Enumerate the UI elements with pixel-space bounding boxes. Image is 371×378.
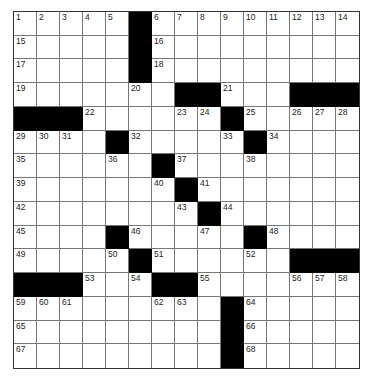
grid-cell[interactable] bbox=[175, 249, 198, 273]
grid-cell[interactable] bbox=[60, 226, 83, 250]
grid-cell[interactable] bbox=[83, 83, 106, 107]
grid-cell[interactable]: 67 bbox=[14, 344, 37, 368]
grid-cell[interactable]: 41 bbox=[198, 178, 221, 202]
grid-cell[interactable] bbox=[129, 107, 152, 131]
grid-cell[interactable] bbox=[129, 202, 152, 226]
grid-cell[interactable]: 31 bbox=[60, 131, 83, 155]
grid-cell[interactable] bbox=[106, 59, 129, 83]
grid-cell[interactable] bbox=[106, 321, 129, 345]
grid-cell[interactable] bbox=[83, 249, 106, 273]
grid-cell[interactable] bbox=[152, 202, 175, 226]
grid-cell[interactable]: 61 bbox=[60, 297, 83, 321]
grid-cell[interactable] bbox=[175, 36, 198, 60]
grid-cell[interactable]: 40 bbox=[152, 178, 175, 202]
grid-cell[interactable] bbox=[244, 36, 267, 60]
grid-cell[interactable] bbox=[336, 226, 359, 250]
grid-cell[interactable] bbox=[152, 321, 175, 345]
grid-cell[interactable]: 4 bbox=[83, 12, 106, 36]
grid-cell[interactable] bbox=[152, 226, 175, 250]
grid-cell[interactable] bbox=[129, 344, 152, 368]
grid-cell[interactable] bbox=[37, 249, 60, 273]
grid-cell[interactable] bbox=[313, 36, 336, 60]
grid-cell[interactable] bbox=[83, 226, 106, 250]
grid-cell[interactable] bbox=[37, 226, 60, 250]
grid-cell[interactable] bbox=[336, 59, 359, 83]
grid-cell[interactable]: 20 bbox=[129, 83, 152, 107]
grid-cell[interactable] bbox=[313, 321, 336, 345]
grid-cell[interactable] bbox=[267, 273, 290, 297]
grid-cell[interactable]: 56 bbox=[290, 273, 313, 297]
grid-cell[interactable]: 11 bbox=[267, 12, 290, 36]
grid-cell[interactable] bbox=[221, 178, 244, 202]
grid-cell[interactable]: 68 bbox=[244, 344, 267, 368]
grid-cell[interactable]: 60 bbox=[37, 297, 60, 321]
grid-cell[interactable]: 12 bbox=[290, 12, 313, 36]
grid-cell[interactable] bbox=[267, 344, 290, 368]
grid-cell[interactable] bbox=[60, 344, 83, 368]
grid-cell[interactable] bbox=[313, 226, 336, 250]
grid-cell[interactable]: 23 bbox=[175, 107, 198, 131]
grid-cell[interactable] bbox=[313, 178, 336, 202]
grid-cell[interactable] bbox=[198, 154, 221, 178]
grid-cell[interactable] bbox=[83, 297, 106, 321]
grid-cell[interactable]: 49 bbox=[14, 249, 37, 273]
grid-cell[interactable]: 9 bbox=[221, 12, 244, 36]
grid-cell[interactable]: 59 bbox=[14, 297, 37, 321]
grid-cell[interactable] bbox=[267, 202, 290, 226]
grid-cell[interactable] bbox=[83, 321, 106, 345]
grid-cell[interactable] bbox=[198, 131, 221, 155]
grid-cell[interactable] bbox=[290, 226, 313, 250]
grid-cell[interactable]: 55 bbox=[198, 273, 221, 297]
grid-cell[interactable]: 57 bbox=[313, 273, 336, 297]
grid-cell[interactable]: 64 bbox=[244, 297, 267, 321]
grid-cell[interactable] bbox=[83, 178, 106, 202]
grid-cell[interactable] bbox=[267, 249, 290, 273]
grid-cell[interactable] bbox=[60, 202, 83, 226]
grid-cell[interactable] bbox=[83, 131, 106, 155]
grid-cell[interactable]: 28 bbox=[336, 107, 359, 131]
grid-cell[interactable] bbox=[267, 36, 290, 60]
grid-cell[interactable] bbox=[290, 297, 313, 321]
grid-cell[interactable] bbox=[290, 178, 313, 202]
grid-cell[interactable]: 54 bbox=[129, 273, 152, 297]
grid-cell[interactable] bbox=[244, 178, 267, 202]
grid-cell[interactable] bbox=[175, 344, 198, 368]
grid-cell[interactable]: 50 bbox=[106, 249, 129, 273]
grid-cell[interactable] bbox=[37, 83, 60, 107]
grid-cell[interactable]: 62 bbox=[152, 297, 175, 321]
grid-cell[interactable] bbox=[313, 154, 336, 178]
grid-cell[interactable] bbox=[175, 131, 198, 155]
grid-cell[interactable] bbox=[244, 59, 267, 83]
grid-cell[interactable]: 47 bbox=[198, 226, 221, 250]
grid-cell[interactable] bbox=[336, 178, 359, 202]
grid-cell[interactable]: 34 bbox=[267, 131, 290, 155]
grid-cell[interactable] bbox=[267, 297, 290, 321]
grid-cell[interactable] bbox=[221, 273, 244, 297]
grid-cell[interactable] bbox=[336, 36, 359, 60]
grid-cell[interactable] bbox=[290, 131, 313, 155]
grid-cell[interactable]: 66 bbox=[244, 321, 267, 345]
grid-cell[interactable] bbox=[60, 36, 83, 60]
grid-cell[interactable] bbox=[221, 59, 244, 83]
grid-cell[interactable]: 7 bbox=[175, 12, 198, 36]
grid-cell[interactable] bbox=[60, 249, 83, 273]
grid-cell[interactable]: 25 bbox=[244, 107, 267, 131]
grid-cell[interactable]: 5 bbox=[106, 12, 129, 36]
grid-cell[interactable] bbox=[106, 297, 129, 321]
grid-cell[interactable]: 36 bbox=[106, 154, 129, 178]
grid-cell[interactable] bbox=[198, 59, 221, 83]
grid-cell[interactable] bbox=[336, 154, 359, 178]
grid-cell[interactable]: 1 bbox=[14, 12, 37, 36]
grid-cell[interactable] bbox=[60, 154, 83, 178]
grid-cell[interactable]: 35 bbox=[14, 154, 37, 178]
grid-cell[interactable] bbox=[152, 83, 175, 107]
grid-cell[interactable] bbox=[37, 59, 60, 83]
grid-cell[interactable]: 52 bbox=[244, 249, 267, 273]
grid-cell[interactable] bbox=[83, 344, 106, 368]
grid-cell[interactable] bbox=[313, 59, 336, 83]
grid-cell[interactable]: 33 bbox=[221, 131, 244, 155]
grid-cell[interactable]: 58 bbox=[336, 273, 359, 297]
grid-cell[interactable]: 44 bbox=[221, 202, 244, 226]
grid-cell[interactable]: 30 bbox=[37, 131, 60, 155]
grid-cell[interactable] bbox=[290, 321, 313, 345]
